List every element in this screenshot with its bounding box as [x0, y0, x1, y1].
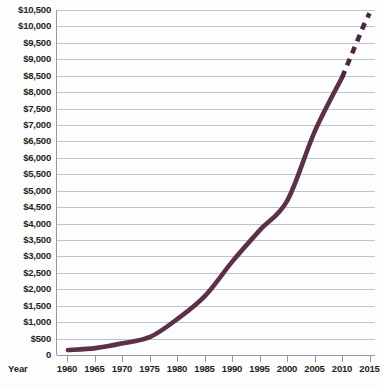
x-tick-label: 1985 — [194, 364, 214, 374]
x-tick-mark — [122, 355, 123, 362]
y-tick-label: $5,000 — [23, 186, 51, 196]
series-projected-line — [342, 13, 369, 77]
y-tick-label: $5,500 — [23, 170, 51, 180]
x-tick-mark — [205, 355, 206, 362]
x-axis: 1960196519701975198019851990199520002005… — [0, 364, 383, 380]
x-tick-mark — [150, 355, 151, 362]
x-tick-label: 1990 — [222, 364, 242, 374]
y-tick-label: 0 — [46, 350, 51, 360]
x-tick-label: 1995 — [249, 364, 269, 374]
x-tick-label: 2015 — [359, 364, 379, 374]
y-tick-label: $6,000 — [23, 153, 51, 163]
x-tick-label: 1960 — [57, 364, 77, 374]
x-tick-label: 1965 — [84, 364, 104, 374]
x-axis-title: Year — [8, 364, 28, 374]
x-tick-label: 2000 — [277, 364, 297, 374]
y-tick-label: $8,500 — [23, 71, 51, 81]
x-tick-mark — [287, 355, 288, 362]
x-tick-mark — [370, 355, 371, 362]
line-chart: $10,500$10,000$9,500$9,000$8,500$8,000$7… — [0, 0, 383, 388]
y-tick-label: $6,500 — [23, 137, 51, 147]
y-tick-label: $4,500 — [23, 202, 51, 212]
data-series-group — [57, 10, 375, 355]
x-tick-mark — [67, 355, 68, 362]
y-tick-label: $10,500 — [18, 5, 51, 15]
x-tick-mark — [95, 355, 96, 362]
y-tick-label: $3,500 — [23, 235, 51, 245]
y-tick-label: $10,000 — [18, 22, 51, 32]
x-tick-mark — [315, 355, 316, 362]
x-tick-label: 2010 — [332, 364, 352, 374]
y-tick-label: $1,000 — [23, 317, 51, 327]
y-tick-label: $2,500 — [23, 268, 51, 278]
x-tick-mark — [342, 355, 343, 362]
y-tick-label: $8,000 — [23, 87, 51, 97]
x-tick-label: 1970 — [112, 364, 132, 374]
x-tick-mark — [232, 355, 233, 362]
x-tick-label: 2005 — [304, 364, 324, 374]
y-tick-label: $9,500 — [23, 38, 51, 48]
y-tick-label: $2,000 — [23, 285, 51, 295]
y-tick-label: $1,500 — [23, 301, 51, 311]
x-tick-label: 1975 — [139, 364, 159, 374]
x-tick-mark — [177, 355, 178, 362]
x-tick-mark — [260, 355, 261, 362]
y-tick-label: $7,500 — [23, 104, 51, 114]
plot-area — [56, 10, 375, 355]
y-tick-label: $500 — [31, 334, 51, 344]
y-tick-label: $9,000 — [23, 55, 51, 65]
x-axis-ticks — [56, 355, 375, 362]
y-tick-label: $4,000 — [23, 219, 51, 229]
y-tick-label: $7,000 — [23, 120, 51, 130]
y-tick-label: $3,000 — [23, 252, 51, 262]
y-axis: $10,500$10,000$9,500$9,000$8,500$8,000$7… — [0, 0, 54, 360]
x-tick-label: 1980 — [167, 364, 187, 374]
series-actual-line — [68, 77, 342, 350]
